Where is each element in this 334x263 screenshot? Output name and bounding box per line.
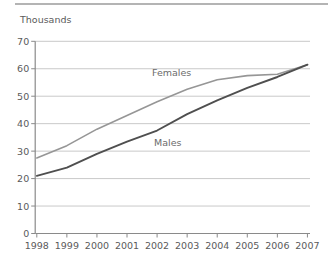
males-line [37, 65, 308, 176]
males-series-label: Males [154, 137, 181, 148]
y-tick-label: 20 [17, 173, 29, 184]
x-tick-label: 2007 [295, 240, 319, 251]
x-tick-label: 2004 [205, 240, 229, 251]
x-tick-label: 1999 [55, 240, 79, 251]
y-tick-label: 70 [17, 36, 29, 47]
y-tick-label: 60 [17, 63, 29, 74]
females-series-label: Females [152, 67, 191, 78]
x-tick-label: 2000 [85, 240, 109, 251]
chart-canvas: Thousands 010203040506070199819992000200… [0, 0, 334, 263]
x-tick-label: 2003 [175, 240, 199, 251]
y-tick-label: 10 [17, 201, 29, 212]
x-tick-label: 2001 [115, 240, 139, 251]
y-tick-label: 50 [17, 91, 29, 102]
x-tick-label: 1998 [25, 240, 49, 251]
x-tick-label: 2006 [265, 240, 289, 251]
line-chart: 0102030405060701998199920002001200220032… [0, 0, 334, 263]
y-tick-label: 40 [17, 118, 29, 129]
x-tick-label: 2005 [235, 240, 259, 251]
y-tick-label: 0 [23, 228, 29, 239]
x-tick-label: 2002 [145, 240, 169, 251]
y-tick-label: 30 [17, 146, 29, 157]
